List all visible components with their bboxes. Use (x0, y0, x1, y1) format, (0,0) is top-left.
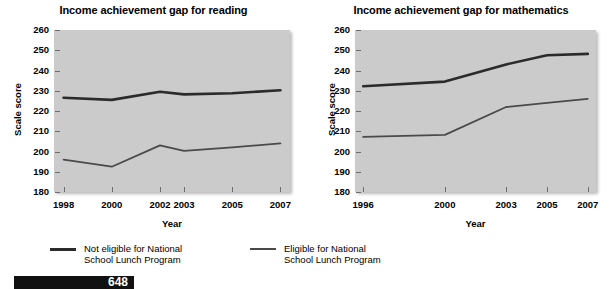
footer-page-bar: 648 (14, 276, 134, 289)
series-line-eligible (363, 99, 588, 137)
legend-label-eligible-line2: School Lunch Program (284, 254, 381, 265)
legend-label-not-eligible-line1: Not eligible for National (84, 243, 182, 254)
legend-swatch-eligible (250, 248, 276, 250)
legend-label-not-eligible-line2: School Lunch Program (84, 254, 181, 265)
series-layer (307, 0, 614, 240)
series-line-not-eligible (363, 54, 588, 86)
series-line-eligible (64, 143, 281, 166)
legend-label-eligible-line1: Eligible for National (284, 243, 366, 254)
series-layer (0, 0, 307, 240)
footer-page-number: 648 (108, 276, 128, 289)
chart-panel-reading: Income achievement gap for reading Scale… (0, 0, 307, 240)
legend-swatch-not-eligible (50, 248, 76, 251)
series-line-not-eligible (64, 90, 281, 100)
chart-panel-mathematics: Income achievement gap for mathematics S… (307, 0, 615, 240)
chart-legend: Not eligible for National School Lunch P… (0, 239, 615, 269)
